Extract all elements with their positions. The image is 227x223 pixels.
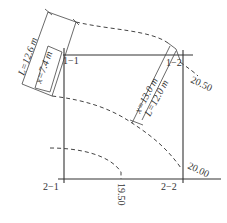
label-20-50: 20.50: [189, 74, 214, 93]
grid-diagram: 1−1 1−2 2−1 2−2 20.50 20.00 19.50 L=12.6…: [0, 0, 227, 223]
contour-top: [76, 22, 168, 43]
label-1-1: 1−1: [63, 55, 79, 66]
label-2-1: 2−1: [43, 181, 59, 192]
label-20-00: 20.00: [186, 160, 211, 179]
contour-19-50: [50, 148, 121, 179]
contour-20-00: [52, 96, 181, 168]
dim-left-inner: x=7.4 m: [32, 50, 54, 86]
label-2-2: 2−2: [161, 181, 177, 192]
label-1-2: 1−2: [166, 57, 182, 68]
label-19-50: 19.50: [116, 183, 127, 206]
